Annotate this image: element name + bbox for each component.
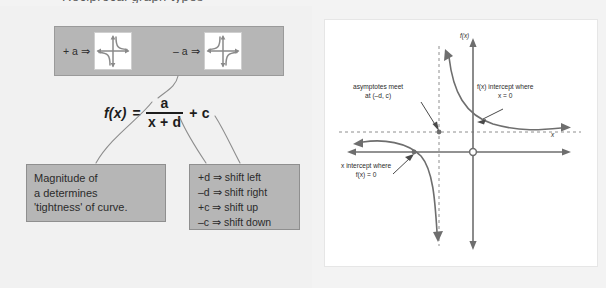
callout-shifts: +d ⇒ shift left –d ⇒ shift right +c ⇒ sh… <box>189 164 300 230</box>
formula-trailing-term: + c <box>189 105 209 121</box>
axis-label-fx: f(x) <box>460 32 469 39</box>
curve-lower-left-branch <box>353 139 443 243</box>
asymptotes-text-line-1: asymptotes meet <box>353 83 403 92</box>
function-formula: f(x) = a x + d + c <box>104 96 210 129</box>
negative-a-label: – a ⇒ <box>173 45 200 57</box>
formula-function-label: f(x) <box>104 105 127 121</box>
shift-line-1: +d ⇒ shift left <box>198 170 291 185</box>
slide-canvas: Reciprocal graph types + a ⇒ <box>0 0 606 288</box>
x-axis <box>347 148 571 155</box>
axis-label-x: x <box>551 131 554 138</box>
f-of-x-axis <box>469 38 476 250</box>
callout-magnitude: Magnitude of a determines 'tightness' of… <box>26 164 166 222</box>
formula-denominator: x + d <box>146 115 183 130</box>
hyperbola-negative-a-icon <box>204 32 242 70</box>
positive-a-label: + a ⇒ <box>63 45 90 57</box>
x-intercept-text-line-1: x intercept where <box>341 162 391 171</box>
formula-equals: = <box>133 105 141 121</box>
sign-cell-negative-a: – a ⇒ <box>173 27 242 75</box>
graph-panel: f(x) x asymptotes meet at (–d, c) f(x) i… <box>324 19 598 267</box>
x-intercept-text-line-2: f(x) = 0 <box>341 171 391 180</box>
annotation-fx-intercept: f(x) intercept where x = 0 <box>477 83 533 101</box>
reciprocal-graph <box>325 20 597 266</box>
leader-x-intercept <box>393 158 410 174</box>
magnitude-line-2: a determines <box>34 186 158 201</box>
origin-marker <box>470 149 477 156</box>
sign-cell-positive-a: + a ⇒ <box>63 27 132 75</box>
connector-c-to-shifts <box>215 116 240 163</box>
hyperbola-positive-a-icon <box>94 32 132 70</box>
annotation-asymptotes-meet: asymptotes meet at (–d, c) <box>353 83 403 101</box>
leader-fx-intercept <box>483 109 503 119</box>
formula-numerator: a <box>157 96 173 111</box>
left-explanation-pane: + a ⇒ <box>0 6 312 288</box>
magnitude-line-3: 'tightness' of curve. <box>34 200 158 215</box>
asymptotes-text-line-2: at (–d, c) <box>353 92 403 101</box>
magnitude-line-1: Magnitude of <box>34 171 158 186</box>
annotation-leaders <box>393 102 503 174</box>
formula-fraction: a x + d <box>146 96 183 129</box>
shift-line-3: +c ⇒ shift up <box>198 200 291 215</box>
fx-intercept-text-line-2: x = 0 <box>477 92 533 101</box>
page-title: Reciprocal graph types <box>62 0 302 3</box>
annotation-x-intercept: x intercept where f(x) = 0 <box>341 162 391 180</box>
shift-line-2: –d ⇒ shift right <box>198 185 291 200</box>
asymptote-intersection-point <box>437 130 442 135</box>
fx-intercept-text-line-1: f(x) intercept where <box>477 83 533 92</box>
leader-asymptotes <box>421 102 436 126</box>
x-intercept-point <box>412 150 417 155</box>
sign-of-a-strip: + a ⇒ <box>54 26 284 76</box>
shift-line-4: –c ⇒ shift down <box>198 215 291 230</box>
